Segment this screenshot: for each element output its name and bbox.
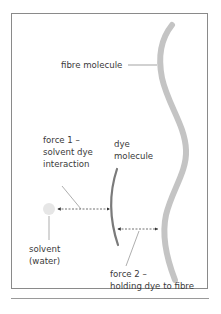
force1-label-line3: interaction bbox=[43, 159, 89, 169]
force2-leader-line bbox=[126, 231, 139, 266]
force1-label-line1: force 1 – bbox=[43, 135, 80, 145]
solvent-label-line1: solvent bbox=[29, 244, 61, 254]
force2-label-line2: holding dye to fibre bbox=[110, 281, 194, 291]
fibre-molecule-label: fibre molecule bbox=[61, 60, 122, 70]
dye-molecule-curve bbox=[111, 169, 118, 245]
force1-leader-line bbox=[62, 186, 81, 209]
fibre-molecule-strand bbox=[160, 25, 186, 280]
dye-fibre-diagram: fibre molecule force 1 – solvent dye int… bbox=[0, 0, 221, 314]
solvent-particle bbox=[43, 203, 55, 215]
solvent-label-line2: (water) bbox=[29, 256, 60, 266]
dye-label-line1: dye bbox=[114, 139, 130, 149]
dye-label-line2: molecule bbox=[114, 151, 153, 161]
force2-label-line1: force 2 – bbox=[110, 269, 147, 279]
force1-label-line2: solvent dye bbox=[43, 147, 93, 157]
